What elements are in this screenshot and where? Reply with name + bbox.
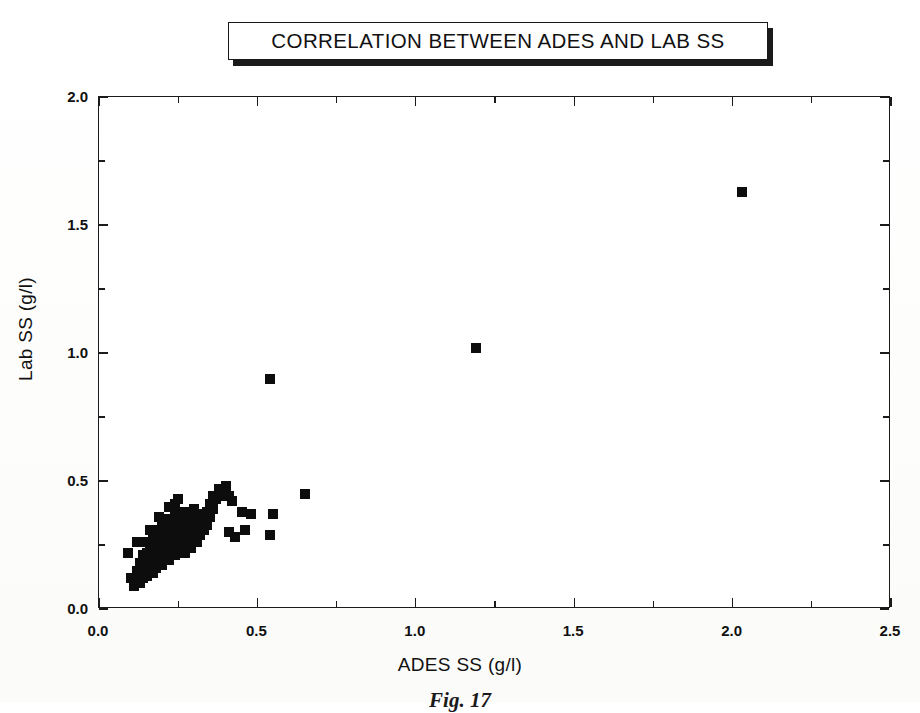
scatter-point <box>268 509 278 519</box>
y-axis-tick-right <box>883 416 889 417</box>
x-tick-label: 0.0 <box>88 622 109 639</box>
scatter-point <box>300 489 310 499</box>
scatter-point <box>237 507 247 517</box>
scatter-point <box>265 530 275 540</box>
x-axis-tick <box>336 601 337 607</box>
x-axis-tick-top <box>178 97 179 103</box>
figure-caption: Fig. 17 <box>0 688 920 713</box>
y-axis-tick <box>99 480 108 481</box>
x-axis-tick-top <box>653 97 654 103</box>
x-axis-tick <box>732 598 733 607</box>
y-axis-tick <box>99 416 105 417</box>
y-axis-tick <box>99 544 105 545</box>
y-tick-label: 0.0 <box>48 600 88 617</box>
y-axis-tick-right <box>883 544 889 545</box>
y-axis-tick <box>99 224 108 225</box>
scatter-point <box>154 512 164 522</box>
x-axis-title: ADES SS (g/l) <box>0 654 920 676</box>
scatter-point <box>240 525 250 535</box>
plot-frame <box>98 96 890 608</box>
y-tick-label: 1.0 <box>48 344 88 361</box>
scatter-point <box>221 481 231 491</box>
scatter-point <box>471 343 481 353</box>
y-axis-title: Lab SS (g/l) <box>15 219 37 439</box>
x-tick-label: 1.5 <box>563 622 584 639</box>
scatter-point <box>170 499 180 509</box>
x-axis-tick <box>890 598 891 607</box>
title-box: CORRELATION BETWEEN ADES AND LAB SS <box>228 22 768 60</box>
y-axis-tick-right <box>880 224 889 225</box>
scatter-point <box>132 537 142 547</box>
y-axis-tick <box>99 288 105 289</box>
y-tick-label: 2.0 <box>48 88 88 105</box>
x-axis-tick <box>257 598 258 607</box>
x-axis-tick-top <box>732 97 733 106</box>
scatter-point <box>227 496 237 506</box>
x-axis-tick-top <box>98 97 99 106</box>
y-axis-tick-right <box>883 288 889 289</box>
x-axis-tick-top <box>890 97 891 106</box>
x-axis-tick-top <box>494 97 495 103</box>
x-tick-label: 0.5 <box>246 622 267 639</box>
scatter-point <box>208 504 218 514</box>
y-axis-tick <box>99 160 105 161</box>
x-axis-tick <box>653 601 654 607</box>
x-axis-tick <box>494 601 495 607</box>
x-axis-tick-top <box>257 97 258 106</box>
y-axis-tick-right <box>880 352 889 353</box>
x-axis-tick <box>811 601 812 607</box>
y-axis-tick-right <box>880 608 889 609</box>
y-tick-label: 0.5 <box>48 472 88 489</box>
x-axis-tick <box>98 598 99 607</box>
x-axis-tick-top <box>336 97 337 103</box>
scatter-point <box>145 525 155 535</box>
x-axis-tick-top <box>811 97 812 103</box>
x-axis-tick <box>178 601 179 607</box>
scatter-point <box>123 548 133 558</box>
x-axis-tick-top <box>574 97 575 106</box>
scatter-point <box>246 509 256 519</box>
x-tick-label: 1.0 <box>404 622 425 639</box>
plot-canvas <box>99 97 891 609</box>
x-axis-tick <box>415 598 416 607</box>
y-axis-tick <box>99 96 108 97</box>
scatter-point <box>737 187 747 197</box>
y-axis-tick-right <box>880 96 889 97</box>
x-axis-tick-top <box>415 97 416 106</box>
page-title: CORRELATION BETWEEN ADES AND LAB SS <box>271 29 724 53</box>
scatter-point <box>230 532 240 542</box>
y-axis-tick-right <box>880 480 889 481</box>
y-tick-label: 1.5 <box>48 216 88 233</box>
y-axis-tick-right <box>883 160 889 161</box>
x-tick-label: 2.5 <box>880 622 901 639</box>
scatter-point <box>265 374 275 384</box>
chart-title-container: CORRELATION BETWEEN ADES AND LAB SS <box>228 22 768 60</box>
x-axis-tick <box>574 598 575 607</box>
x-tick-label: 2.0 <box>721 622 742 639</box>
y-axis-tick <box>99 608 108 609</box>
y-axis-tick <box>99 352 108 353</box>
